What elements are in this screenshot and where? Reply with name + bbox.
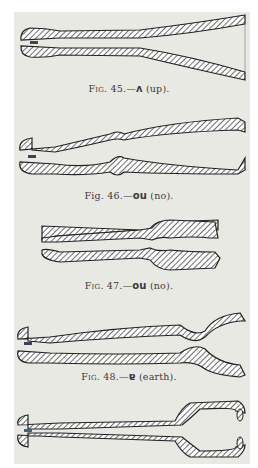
figure-49-drawing (0, 395, 258, 468)
figure-48: Fig. 48.—ɐ (earth). (0, 285, 258, 380)
figure-47: Fig. 47.—ou (no). (0, 190, 258, 285)
figure-46-drawing (0, 100, 258, 190)
caption-prefix: Fig. (88, 83, 107, 94)
figure-45-caption: Fig. 45.—ʌ (up). (0, 83, 258, 94)
caption-number: 48 (103, 371, 116, 382)
caption-number: 45 (111, 83, 124, 94)
figure-48-caption: Fig. 48.—ɐ (earth). (0, 371, 258, 382)
caption-symbol: ɐ (129, 371, 136, 382)
figure-47-drawing (0, 190, 258, 285)
figure-46: Fig. 46.—ou (no). (0, 100, 258, 190)
figure-45: Fig. 45.—ʌ (up). (0, 0, 258, 100)
caption-gloss: (earth). (139, 371, 177, 382)
caption-prefix: Fig. (81, 371, 100, 382)
caption-gloss: (up). (146, 83, 170, 94)
figure-49 (0, 395, 258, 468)
caption-symbol: ʌ (136, 83, 143, 94)
figure-48-drawing (0, 285, 258, 380)
